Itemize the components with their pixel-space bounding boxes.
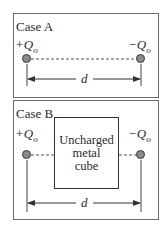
diagram-lines <box>0 0 167 228</box>
cube-label-line: cube <box>75 160 99 173</box>
cube-label-line: Uncharged <box>59 134 114 147</box>
cube-label-line: metal <box>73 147 101 160</box>
case-a-negative-charge <box>136 54 145 63</box>
uncharged-metal-cube: Uncharged metal cube <box>54 117 119 189</box>
case-a-positive-charge <box>22 54 31 63</box>
case-a-distance-label: d <box>78 72 91 85</box>
case-b-positive-charge <box>22 150 31 159</box>
case-b-distance-label: d <box>78 196 91 209</box>
case-b-negative-charge <box>136 150 145 159</box>
